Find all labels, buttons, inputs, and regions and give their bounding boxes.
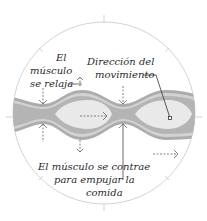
relax-label-line3: se relaja: [30, 78, 73, 89]
contract-label-line1: El músculo se contrae: [38, 161, 150, 172]
direction-label-line1: Dirección del: [87, 56, 154, 67]
relax-label-line1: El: [56, 52, 67, 63]
peristalsis-diagram: El músculo se relaja Dirección del movim…: [0, 0, 207, 221]
relax-label-line2: músculo: [30, 65, 72, 76]
contract-label-line3: comida: [86, 187, 123, 198]
direction-label-line2: movimiento: [95, 69, 154, 80]
contract-label-line2: para empujar la: [54, 174, 135, 185]
esophagus-tube: [0, 90, 207, 140]
